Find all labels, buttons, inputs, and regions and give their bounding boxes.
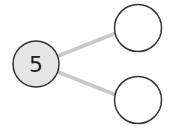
connector-top [58,33,116,56]
number-bond-diagram: 5 [0,0,170,128]
part-circle-top[interactable] [115,5,162,52]
whole-value: 5 [29,52,43,77]
part-circle-bottom[interactable] [115,77,162,124]
connector-bottom [58,72,116,95]
